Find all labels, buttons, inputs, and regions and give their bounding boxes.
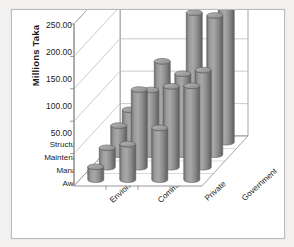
bar-community-awareness [120, 141, 136, 182]
chart-frame: Millions Taka 250.00 200.00 150.00 100.0… [11, 9, 285, 239]
plot-area [12, 10, 284, 238]
chart-3d-scene [12, 10, 284, 238]
chart-screenshot: Millions Taka 250.00 200.00 150.00 100.0… [0, 0, 294, 247]
bar-government-awareness [184, 83, 200, 183]
bar-enviornment-awareness [88, 164, 104, 183]
bar-private-awareness [152, 125, 168, 182]
